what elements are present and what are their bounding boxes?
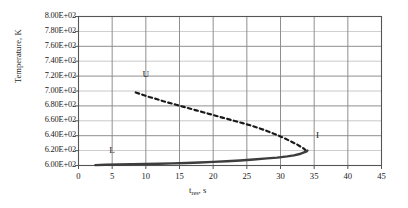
series-annotation-i: I bbox=[316, 131, 319, 140]
x-tick-label: 5 bbox=[110, 172, 114, 181]
y-axis-title: Temperature, K bbox=[14, 1, 23, 111]
y-tick-label: 8.00E+02 bbox=[45, 12, 76, 20]
x-axis-title-unit: , s bbox=[199, 185, 207, 195]
x-axis-title-subscript: res bbox=[191, 189, 198, 196]
x-tick-label: 20 bbox=[209, 172, 218, 181]
y-tick-label: 6.40E+02 bbox=[45, 131, 76, 139]
y-tick-label: 6.20E+02 bbox=[45, 146, 76, 154]
horizontal-gridlines bbox=[79, 17, 382, 151]
chart-figure: 6.00E+026.20E+026.40E+026.60E+026.80E+02… bbox=[0, 0, 408, 208]
series-line-l bbox=[95, 151, 307, 166]
series-annotation-u: U bbox=[143, 70, 150, 79]
x-tick-label: 35 bbox=[310, 172, 319, 181]
y-tick-label: 7.60E+02 bbox=[45, 42, 76, 50]
series-line-u bbox=[136, 92, 308, 152]
x-tick-label: 30 bbox=[276, 172, 285, 181]
y-tick-label: 6.60E+02 bbox=[45, 116, 76, 124]
x-tick-label: 15 bbox=[175, 172, 184, 181]
series-annotation-l: L bbox=[109, 146, 115, 155]
x-tick-label: 40 bbox=[344, 172, 353, 181]
x-tick-label: 25 bbox=[243, 172, 252, 181]
y-axis-tick-labels: 6.00E+026.20E+026.40E+026.60E+026.80E+02… bbox=[0, 0, 76, 208]
y-tick-label: 6.00E+02 bbox=[45, 161, 76, 169]
data-series-layer bbox=[95, 92, 307, 165]
y-tick-label: 7.80E+02 bbox=[45, 27, 76, 35]
x-axis-title: tres, s bbox=[189, 186, 206, 195]
x-tick-label: 0 bbox=[76, 172, 80, 181]
x-tick-label: 10 bbox=[142, 172, 151, 181]
axis-tickmarks bbox=[75, 17, 382, 170]
y-tick-label: 7.40E+02 bbox=[45, 57, 76, 65]
y-tick-label: 7.20E+02 bbox=[45, 72, 76, 80]
y-tick-label: 7.00E+02 bbox=[45, 87, 76, 95]
y-tick-label: 6.80E+02 bbox=[45, 101, 76, 109]
x-tick-label: 45 bbox=[377, 172, 386, 181]
